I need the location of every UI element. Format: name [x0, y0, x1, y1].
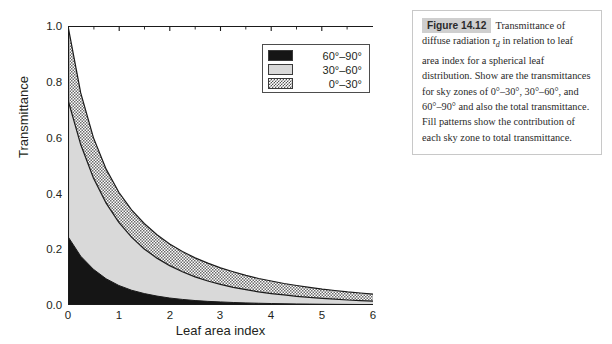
y-tick-label-4: 0.8 [30, 76, 62, 88]
legend-label-0-30: 0°–30° [293, 78, 363, 90]
legend: 60°–90° 30°–60° 0°–30° [262, 44, 370, 93]
legend-label-60-90: 60°–90° [293, 50, 363, 62]
x-tick-label-4: 4 [261, 309, 281, 321]
x-tick-label-6: 6 [363, 309, 383, 321]
x-tick-label-5: 5 [312, 309, 332, 321]
figure-container: Transmittance Leaf area index 0.0 0.2 0.… [0, 0, 612, 344]
caption-part-2: in relation to leaf area index for a sph… [422, 35, 590, 142]
legend-item-0-30: 0°–30° [268, 77, 363, 90]
y-tick-label-1: 0.2 [30, 243, 62, 255]
x-top-ticks [94, 27, 347, 32]
y-tick-label-3: 0.6 [30, 132, 62, 144]
legend-swatch-gray-icon [268, 64, 293, 75]
x-tick-label-0: 0 [58, 309, 78, 321]
plot-frame: 60°–90° 30°–60° 0°–30° [68, 26, 373, 305]
y-tick-label-2: 0.4 [30, 188, 62, 200]
legend-label-30-60: 30°–60° [293, 64, 363, 76]
y-tick-label-5: 1.0 [30, 20, 62, 32]
legend-swatch-dotted-icon [268, 78, 293, 89]
x-tick-label-1: 1 [109, 309, 129, 321]
figure-caption-panel: Figure 14.12Transmittance of diffuse rad… [412, 10, 602, 155]
legend-swatch-black-icon [268, 50, 293, 61]
figure-caption-text: Figure 14.12Transmittance of diffuse rad… [422, 18, 592, 145]
x-tick-label-3: 3 [210, 309, 230, 321]
legend-item-60-90: 60°–90° [268, 49, 363, 62]
y-axis-label-wrapper: Transmittance [22, 26, 42, 305]
x-tick-label-2: 2 [160, 309, 180, 321]
chart-area: Transmittance Leaf area index 0.0 0.2 0.… [0, 0, 400, 344]
y-axis-label: Transmittance [16, 76, 31, 158]
legend-item-30-60: 30°–60° [268, 63, 363, 76]
x-axis-label: Leaf area index [68, 323, 373, 338]
figure-number-badge: Figure 14.12 [422, 18, 491, 33]
